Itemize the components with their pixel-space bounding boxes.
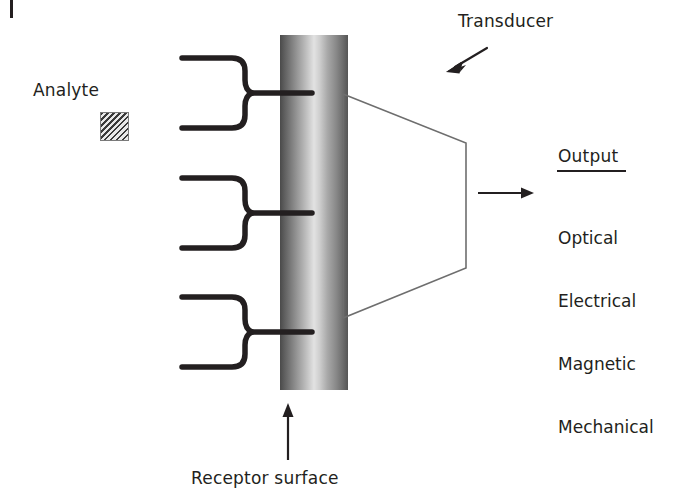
transducer-label: Transducer bbox=[458, 13, 553, 30]
output-arrow bbox=[478, 188, 534, 199]
transducer-column bbox=[280, 35, 348, 390]
output-item-optical: Optical bbox=[558, 228, 654, 249]
receptor-surface-label: Receptor surface bbox=[191, 470, 339, 487]
receptor-surface-arrow bbox=[283, 403, 294, 460]
output-modality-list: Optical Electrical Magnetic Mechanical bbox=[558, 186, 654, 480]
left-edge-tick-mark bbox=[10, 0, 13, 18]
output-title-label: Output bbox=[558, 148, 618, 165]
diagram-canvas: Analyte Transducer Receptor surface Outp… bbox=[0, 0, 689, 502]
output-item-electrical: Electrical bbox=[558, 291, 654, 312]
output-item-magnetic: Magnetic bbox=[558, 354, 654, 375]
output-title-underline bbox=[557, 170, 626, 172]
output-item-mechanical: Mechanical bbox=[558, 417, 654, 438]
analyte-label: Analyte bbox=[33, 82, 99, 99]
signal-funnel bbox=[343, 94, 466, 318]
transducer-pointer-arrow bbox=[446, 48, 487, 74]
analyte-square-icon bbox=[100, 112, 129, 141]
